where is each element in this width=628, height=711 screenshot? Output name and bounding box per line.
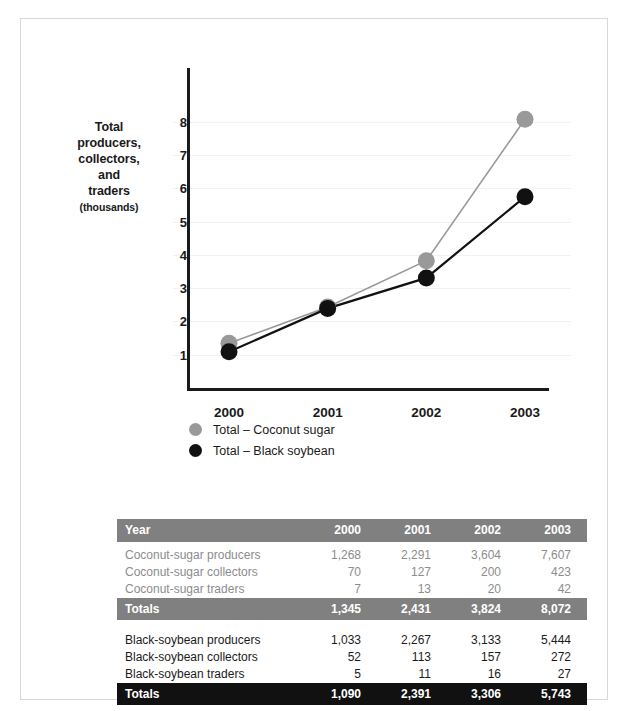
table-row-soy-2-value-2003: 27: [517, 666, 587, 683]
table-row-soy-2-value-2001: 11: [377, 666, 447, 683]
legend-item-black-soybean[interactable]: Total – Black soybean: [189, 440, 489, 461]
table-row-soy-2-value-2000: 5: [307, 666, 377, 683]
table-row-coconut-1-label: Coconut-sugar collectors: [117, 564, 307, 581]
data-table-wrapper: Year 2000 2001 2002 2003 Coconut-sugar p…: [117, 519, 587, 705]
table-total-coconut-label: Totals: [117, 598, 307, 620]
y-axis-title-line-3: collectors,: [78, 152, 139, 166]
table-total-coconut-value-2002: 3,824: [447, 598, 517, 620]
table-row-soy-0-value-2002: 3,133: [447, 632, 517, 649]
table-row-soy-1-value-2003: 272: [517, 649, 587, 666]
y-axis-title-line-1: Total: [95, 120, 123, 134]
x-tick-label-2001: 2001: [298, 405, 358, 420]
legend-item-label: Total – Black soybean: [213, 444, 335, 458]
table-row-soy-1-value-2000: 52: [307, 649, 377, 666]
table-row-coconut-0-value-2002: 3,604: [447, 547, 517, 564]
table-header-year: Year: [117, 519, 307, 542]
data-point-black-soybean-2001: [319, 300, 336, 317]
table-row-coconut-1-value-2002: 200: [447, 564, 517, 581]
data-point-black-soybean-2000: [221, 343, 238, 360]
table-header-2003: 2003: [517, 519, 587, 542]
table-body: Coconut-sugar producers1,2682,2913,6047,…: [117, 542, 587, 705]
table-total-soy-value-2001: 2,391: [377, 683, 447, 705]
table-row-coconut-1-value-2001: 127: [377, 564, 447, 581]
table-row-coconut-2-value-2000: 7: [307, 581, 377, 598]
table-total-soy-value-2000: 1,090: [307, 683, 377, 705]
y-axis-units: (thousands): [57, 199, 161, 215]
table-row-soy-0-value-2003: 5,444: [517, 632, 587, 649]
table-header-2000: 2000: [307, 519, 377, 542]
table-row: Black-soybean traders5111627: [117, 666, 587, 683]
table-row-coconut-0-value-2001: 2,291: [377, 547, 447, 564]
table-header-2002: 2002: [447, 519, 517, 542]
data-point-coconut-sugar-2003: [517, 111, 534, 128]
table-total-soy-label: Totals: [117, 683, 307, 705]
y-axis-title: Total producers, collectors, and traders…: [57, 119, 161, 215]
data-table: Year 2000 2001 2002 2003 Coconut-sugar p…: [117, 519, 587, 705]
x-tick-label-2003: 2003: [495, 405, 555, 420]
table-total-row: Totals1,0902,3913,3065,743: [117, 683, 587, 705]
legend-marker-icon: [189, 423, 202, 436]
table-row-soy-2-value-2002: 16: [447, 666, 517, 683]
data-point-black-soybean-2003: [517, 188, 534, 205]
table-header-row: Year 2000 2001 2002 2003: [117, 519, 587, 542]
x-tick-label-2000: 2000: [199, 405, 259, 420]
table-row-coconut-0-value-2003: 7,607: [517, 547, 587, 564]
table-spacer-cell: [117, 620, 587, 627]
table-row: Coconut-sugar producers1,2682,2913,6047,…: [117, 547, 587, 564]
legend-marker-icon: [189, 444, 202, 457]
line-chart: Total producers, collectors, and traders…: [21, 19, 609, 419]
table-row-soy-0-label: Black-soybean producers: [117, 632, 307, 649]
table-row-coconut-0-label: Coconut-sugar producers: [117, 547, 307, 564]
y-axis-title-line-4: and: [98, 168, 120, 182]
table-row-coconut-2-value-2003: 42: [517, 581, 587, 598]
data-series-layer: [173, 53, 573, 393]
table-total-soy-value-2002: 3,306: [447, 683, 517, 705]
table-head: Year 2000 2001 2002 2003: [117, 519, 587, 542]
table-total-coconut-value-2000: 1,345: [307, 598, 377, 620]
table-row-soy-0-value-2001: 2,267: [377, 632, 447, 649]
table-row-soy-1-label: Black-soybean collectors: [117, 649, 307, 666]
table-row: Coconut-sugar traders7132042: [117, 581, 587, 598]
figure-panel: Total producers, collectors, and traders…: [20, 18, 608, 700]
chart-legend: Total – Coconut sugarTotal – Black soybe…: [189, 419, 489, 461]
table-row-coconut-1-value-2000: 70: [307, 564, 377, 581]
data-point-black-soybean-2002: [418, 269, 435, 286]
table-row-coconut-1-value-2003: 423: [517, 564, 587, 581]
table-row-soy-1-value-2001: 113: [377, 649, 447, 666]
table-row: Coconut-sugar collectors70127200423: [117, 564, 587, 581]
series-line-coconut-sugar: [229, 119, 525, 343]
table-row-coconut-2-value-2002: 20: [447, 581, 517, 598]
table-row: Black-soybean collectors52113157272: [117, 649, 587, 666]
data-point-coconut-sugar-2002: [418, 252, 435, 269]
table-total-coconut-value-2001: 2,431: [377, 598, 447, 620]
table-total-coconut-value-2003: 8,072: [517, 598, 587, 620]
table-row-coconut-2-value-2001: 13: [377, 581, 447, 598]
table-group-gap: [117, 620, 587, 627]
legend-item-coconut-sugar[interactable]: Total – Coconut sugar: [189, 419, 489, 440]
y-axis-title-line-5: traders: [88, 184, 130, 198]
table-total-soy-value-2003: 5,743: [517, 683, 587, 705]
x-tick-label-2002: 2002: [396, 405, 456, 420]
table-row-soy-0-value-2000: 1,033: [307, 632, 377, 649]
plot-area: 12345678 2000200120022003: [173, 53, 573, 393]
table-header-2001: 2001: [377, 519, 447, 542]
table-total-row: Totals1,3452,4313,8248,072: [117, 598, 587, 620]
table-row: Black-soybean producers1,0332,2673,1335,…: [117, 632, 587, 649]
legend-item-label: Total – Coconut sugar: [213, 423, 335, 437]
series-line-black-soybean: [229, 197, 525, 352]
table-row-coconut-2-label: Coconut-sugar traders: [117, 581, 307, 598]
table-row-soy-2-label: Black-soybean traders: [117, 666, 307, 683]
table-row-coconut-0-value-2000: 1,268: [307, 547, 377, 564]
table-row-soy-1-value-2002: 157: [447, 649, 517, 666]
y-axis-title-line-2: producers,: [77, 136, 141, 150]
